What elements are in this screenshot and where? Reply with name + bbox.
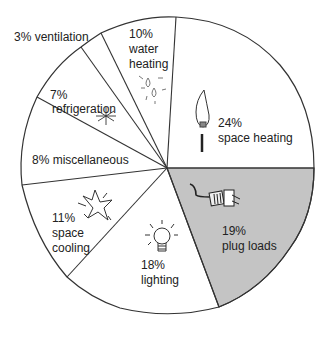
label-miscellaneous: 8% miscellaneous bbox=[32, 153, 129, 167]
snowflake-icon bbox=[78, 190, 112, 220]
label-refrigeration-name: refrigeration bbox=[52, 102, 116, 116]
caption-faint bbox=[10, 325, 330, 333]
label-space-heating-pct: 24% bbox=[218, 116, 242, 130]
label-plug-loads-name: plug loads bbox=[222, 239, 277, 253]
label-space-cooling-line1: space bbox=[52, 226, 84, 240]
label-water-heating-line1: water bbox=[128, 42, 158, 56]
label-space-cooling-line2: cooling bbox=[52, 241, 90, 255]
lightbulb-icon bbox=[145, 220, 178, 251]
label-ventilation: 3% ventilation bbox=[14, 30, 89, 44]
pie-chart: 24% space heating 19% plug loads 18% lig… bbox=[0, 0, 330, 337]
label-refrigeration-pct: 7% bbox=[50, 88, 68, 102]
label-space-cooling-pct: 11% bbox=[52, 211, 75, 225]
label-water-heating-line2: heating bbox=[129, 57, 168, 71]
flame-icon bbox=[196, 90, 209, 152]
water-drops-icon bbox=[139, 76, 166, 104]
label-lighting-pct: 18% bbox=[141, 258, 165, 272]
label-water-heating-pct: 10% bbox=[129, 27, 153, 41]
label-plug-loads-pct: 19% bbox=[222, 224, 246, 238]
label-space-heating-name: space heating bbox=[218, 131, 293, 145]
label-lighting-name: lighting bbox=[141, 273, 179, 287]
